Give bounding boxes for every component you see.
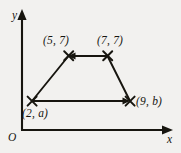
x-axis-label: x bbox=[167, 134, 172, 146]
vertex-label-bottom-right: (9, b) bbox=[136, 96, 162, 108]
y-axis-arrowhead bbox=[17, 9, 26, 20]
edge-right-slant bbox=[108, 56, 131, 101]
vertex-label-top-right: (7, 7) bbox=[97, 35, 123, 47]
vertex-label-top-left: (5, 7) bbox=[43, 35, 69, 47]
vertex-label-bottom-left: (2, a) bbox=[22, 108, 48, 120]
coordinate-geometry-figure: (5, 7) (7, 7) (2, a) (9, b) y x O bbox=[0, 0, 181, 153]
y-axis-label: y bbox=[12, 10, 17, 22]
figure-canvas bbox=[0, 0, 181, 153]
origin-label: O bbox=[8, 132, 16, 144]
edge-left-slant bbox=[32, 56, 69, 101]
